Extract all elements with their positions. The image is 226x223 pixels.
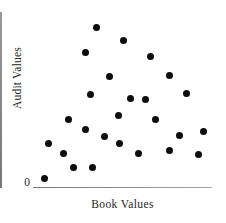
data-point — [127, 95, 134, 102]
data-point — [166, 147, 173, 154]
data-point — [115, 112, 122, 119]
data-point — [87, 91, 94, 98]
data-point — [147, 53, 154, 60]
y-axis-line — [0, 12, 2, 188]
data-point — [41, 175, 48, 182]
x-axis-title: Book Values — [33, 198, 212, 210]
data-point — [70, 164, 77, 171]
data-point — [183, 90, 190, 97]
data-point — [65, 116, 72, 123]
data-point — [195, 151, 202, 158]
data-point — [82, 126, 89, 133]
data-point — [152, 116, 159, 123]
data-point — [89, 164, 96, 171]
plot-area — [33, 12, 212, 187]
data-point — [101, 133, 108, 140]
data-point — [176, 132, 183, 139]
scatter-plot-figure: 0 Audit Values Book Values — [0, 0, 226, 223]
data-point — [60, 150, 67, 157]
data-point — [82, 49, 89, 56]
data-point — [166, 72, 173, 79]
data-point — [116, 140, 123, 147]
data-point — [142, 96, 149, 103]
y-axis-origin-tick-label: 0 — [18, 176, 30, 188]
data-point — [93, 24, 100, 31]
y-axis-title: Audit Values — [11, 23, 23, 133]
data-point — [200, 128, 207, 135]
data-point — [106, 73, 113, 80]
data-point — [135, 150, 142, 157]
data-point — [45, 140, 52, 147]
data-point — [120, 37, 127, 44]
